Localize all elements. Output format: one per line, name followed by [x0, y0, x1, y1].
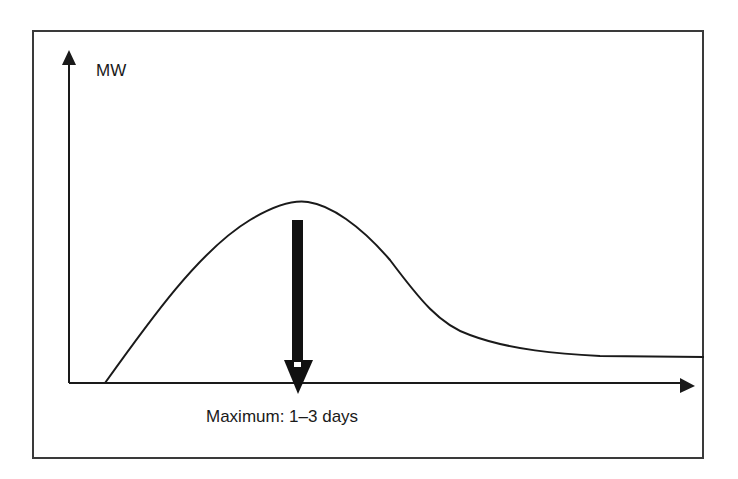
load-curve — [105, 202, 704, 383]
y-axis-arrowhead-icon — [62, 50, 76, 65]
maximum-marker-arrow-icon — [284, 220, 313, 394]
y-axis — [62, 50, 76, 383]
maximum-caption: Maximum: 1–3 days — [206, 407, 358, 427]
y-axis-label: MW — [96, 61, 127, 81]
x-axis-arrowhead-icon — [680, 378, 695, 393]
x-axis — [69, 378, 695, 393]
